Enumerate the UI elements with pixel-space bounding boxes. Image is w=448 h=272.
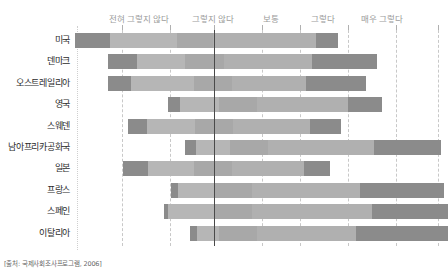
plot-area: 미국덴마크오스트레일리아영국스웨덴남아프리카공화국일본프랑스스페인이탈리아 bbox=[78, 30, 444, 246]
bar-segment-1 bbox=[147, 119, 195, 134]
bar-segment-1 bbox=[168, 204, 214, 219]
bar-segment-3 bbox=[257, 226, 355, 241]
bar-track bbox=[171, 183, 445, 198]
country-label: 스페인 bbox=[47, 204, 70, 219]
bar-track bbox=[164, 204, 448, 219]
bar-segment-4 bbox=[348, 97, 382, 112]
bar-segment-0 bbox=[190, 226, 197, 241]
bar-track bbox=[123, 161, 331, 176]
bar-segment-1 bbox=[178, 183, 214, 198]
bar-row: 덴마크 bbox=[78, 54, 444, 69]
country-label: 미국 bbox=[55, 33, 70, 48]
bar-row: 오스트레일리아 bbox=[78, 76, 444, 91]
bar-segment-1 bbox=[197, 226, 219, 241]
bar-segment-0 bbox=[171, 183, 178, 198]
tickmark-3 bbox=[262, 25, 263, 30]
country-label: 오스트레일리아 bbox=[16, 76, 70, 91]
tickmark-7 bbox=[438, 25, 439, 30]
country-label: 스웨덴 bbox=[47, 119, 70, 134]
bar-row: 스웨덴 bbox=[78, 119, 444, 134]
bar-segment-2 bbox=[219, 97, 257, 112]
bar-segment-4 bbox=[374, 140, 441, 155]
tickmark-4 bbox=[300, 25, 301, 30]
bar-segment-0 bbox=[108, 76, 131, 91]
tickmark-6 bbox=[396, 25, 397, 30]
bar-segment-1 bbox=[137, 54, 185, 69]
bar-segment-0 bbox=[128, 119, 147, 134]
bar-segment-0 bbox=[75, 33, 110, 48]
bar-segment-4 bbox=[312, 54, 377, 69]
bar-segment-2 bbox=[194, 76, 232, 91]
bar-segment-1 bbox=[110, 33, 177, 48]
bar-segment-4 bbox=[360, 183, 444, 198]
bar-segment-3 bbox=[252, 183, 360, 198]
bar-segment-1 bbox=[196, 140, 230, 155]
bar-track bbox=[185, 140, 441, 155]
bar-segment-1 bbox=[131, 76, 193, 91]
bar-segment-2 bbox=[230, 140, 268, 155]
bar-row: 일본 bbox=[78, 161, 444, 176]
center-axis-line bbox=[214, 30, 215, 246]
bar-segment-2 bbox=[177, 33, 213, 48]
bar-segment-4 bbox=[304, 161, 330, 176]
bar-segment-3 bbox=[233, 119, 310, 134]
bar-segment-0 bbox=[168, 97, 180, 112]
scale-label-4: 매우 그렇다 bbox=[361, 12, 403, 24]
bar-row: 남아프리카공화국 bbox=[78, 140, 444, 155]
scale-label-0: 전혀 그렇지 않다 bbox=[109, 12, 169, 24]
bar-segment-3 bbox=[232, 161, 304, 176]
bar-segment-0 bbox=[108, 54, 137, 69]
scale-label-2: 보통 bbox=[263, 12, 279, 24]
bar-segment-4 bbox=[310, 119, 341, 134]
bar-row: 이탈리아 bbox=[78, 226, 444, 241]
country-label: 영국 bbox=[55, 97, 70, 112]
bar-track bbox=[108, 76, 366, 91]
bar-segment-0 bbox=[185, 140, 196, 155]
scale-label-3: 그렇다 bbox=[311, 12, 334, 24]
bar-segment-3 bbox=[268, 140, 374, 155]
bar-segment-2 bbox=[214, 183, 252, 198]
bar-segment-2 bbox=[219, 226, 257, 241]
scale-label-1: 그렇지 않다 bbox=[192, 12, 234, 24]
bar-segment-3 bbox=[252, 204, 372, 219]
bar-segment-3 bbox=[224, 54, 313, 69]
bar-segment-3 bbox=[213, 33, 316, 48]
bar-segment-1 bbox=[148, 161, 194, 176]
bar-segment-4 bbox=[316, 33, 338, 48]
bar-row: 미국 bbox=[78, 33, 444, 48]
bar-segment-4 bbox=[306, 76, 366, 91]
bar-segment-2 bbox=[214, 204, 252, 219]
country-label: 이탈리아 bbox=[39, 226, 70, 241]
bar-row: 영국 bbox=[78, 97, 444, 112]
bar-segment-2 bbox=[185, 54, 223, 69]
tickmark-1 bbox=[170, 25, 171, 30]
source-note: [출처: 국제사회조사프로그램, 2006] bbox=[4, 258, 102, 268]
country-label: 남아프리카공화국 bbox=[8, 140, 70, 155]
bar-row: 프랑스 bbox=[78, 183, 444, 198]
bar-track bbox=[128, 119, 342, 134]
country-label: 덴마크 bbox=[47, 54, 70, 69]
scale-legend: 전혀 그렇지 않다그렇지 않다보통그렇다매우 그렇다 bbox=[0, 12, 448, 26]
tickmark-5 bbox=[348, 25, 349, 30]
bar-segment-4 bbox=[356, 226, 448, 241]
bar-segment-3 bbox=[257, 97, 348, 112]
likert-bar-chart: 전혀 그렇지 않다그렇지 않다보통그렇다매우 그렇다 미국덴마크오스트레일리아영… bbox=[0, 0, 448, 272]
bar-segment-3 bbox=[232, 76, 306, 91]
bar-track bbox=[75, 33, 338, 48]
country-label: 일본 bbox=[55, 161, 70, 176]
bar-segment-0 bbox=[123, 161, 148, 176]
bar-track bbox=[108, 54, 377, 69]
bar-row: 스페인 bbox=[78, 204, 444, 219]
bar-segment-2 bbox=[194, 161, 232, 176]
country-label: 프랑스 bbox=[47, 183, 70, 198]
tickmark-0 bbox=[122, 25, 123, 30]
bar-track bbox=[168, 97, 382, 112]
bar-track bbox=[190, 226, 448, 241]
bar-segment-4 bbox=[372, 204, 448, 219]
